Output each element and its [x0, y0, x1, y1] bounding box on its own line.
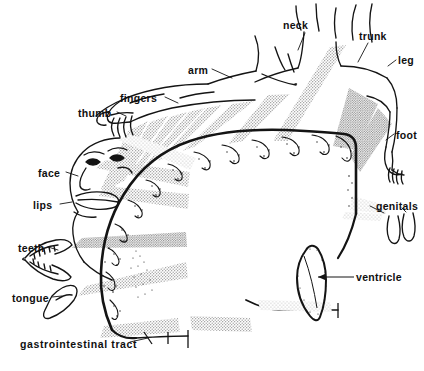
leader-leg: [388, 60, 396, 66]
homunculus-artwork: [0, 0, 424, 371]
ray-trunk: [273, 45, 346, 141]
toe-3: [397, 170, 399, 184]
label-lips: lips: [33, 200, 52, 211]
ventricle-inner-line: [304, 256, 317, 308]
label-thumb: thumb: [78, 108, 112, 119]
label-arm: arm: [188, 65, 208, 76]
leader-neck: [298, 33, 305, 50]
finger-1: [112, 118, 114, 136]
torso-side: [387, 78, 397, 108]
label-genitals: genitals: [376, 201, 418, 212]
neckline-left: [208, 71, 256, 84]
finger-2: [118, 118, 120, 137]
mouth-line: [78, 199, 118, 202]
finger-3: [124, 117, 126, 137]
torso-top: [341, 66, 387, 78]
cheek-outline: [84, 262, 112, 280]
tongue-crease: [56, 295, 72, 300]
leg-back: [392, 152, 393, 170]
eye-left: [86, 159, 100, 165]
leader-fingers: [165, 97, 178, 103]
genitals-outline-left: [387, 216, 400, 244]
label-foot: foot: [396, 130, 417, 141]
label-tongue: tongue: [12, 293, 49, 304]
leader-face: [66, 172, 78, 176]
toe-1: [389, 168, 391, 182]
shoulder-left: [255, 36, 259, 71]
cortex-outer-arc: [101, 130, 356, 330]
clavicle: [262, 74, 296, 85]
leader-lips: [60, 202, 72, 204]
hair-strand-2: [316, 4, 319, 31]
ray-tongue: [78, 262, 188, 296]
brow-left: [84, 152, 104, 155]
eye-right: [110, 155, 124, 161]
cortex-lower-right-edge: [338, 214, 356, 258]
cortex-base-stem: [136, 336, 188, 338]
toe-4: [401, 171, 403, 184]
label-ventricle: ventricle: [356, 272, 402, 283]
jaw-outline: [73, 212, 84, 262]
elbow-crease: [180, 92, 214, 98]
upper-tooth-1: [34, 254, 35, 259]
toe-2: [393, 169, 395, 183]
genitals-outline-right: [402, 213, 415, 241]
gyrus-12: [312, 135, 329, 154]
ray-genitals-lower: [342, 212, 383, 221]
lower-tooth-2: [38, 262, 39, 267]
leader-arm: [212, 69, 232, 78]
lower-tooth-1: [33, 259, 34, 264]
gyrus-5: [128, 200, 142, 218]
gi-shade: [190, 316, 252, 332]
ray-lips: [99, 186, 189, 209]
nose: [80, 168, 90, 190]
hair-strand-3: [335, 8, 337, 38]
hair-strand-4: [352, 5, 356, 40]
gyrus-9: [222, 145, 239, 164]
lower-tooth-4: [50, 266, 51, 271]
label-leg: leg: [398, 55, 414, 66]
label-face: face: [38, 168, 60, 179]
projection-rays: [72, 45, 392, 338]
ray-teeth: [72, 232, 187, 248]
label-teeth: teeth: [18, 243, 45, 254]
lower-tooth-3: [44, 264, 45, 269]
gyrus-10: [252, 140, 269, 159]
base-shade: [258, 300, 332, 312]
leader-trunk: [358, 43, 368, 62]
gyrus-8: [194, 152, 210, 170]
label-neck: neck: [283, 20, 308, 31]
lower-lip: [76, 203, 118, 209]
neck-crease-1: [275, 47, 285, 70]
label-gastrointestinal-tract: gastrointestinal tract: [20, 339, 137, 350]
gyrus-3: [108, 248, 119, 265]
ventricle-arrow-head: [318, 274, 325, 280]
label-fingers: fingers: [120, 93, 157, 104]
label-trunk: trunk: [359, 31, 387, 42]
homunculus-figure: neck trunk leg arm fingers thumb foot fa…: [0, 0, 424, 371]
